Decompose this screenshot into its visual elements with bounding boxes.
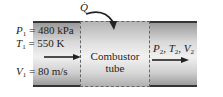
- heat-label: · Q: [80, 2, 88, 13]
- combustor-label-line1: Combustor: [80, 50, 150, 62]
- combustor-label-line2: tube: [80, 62, 150, 74]
- outlet-state-label: P2, T2, V2: [153, 43, 194, 58]
- heat-arrow-icon: [86, 12, 113, 22]
- inlet-velocity: V1 = 80 m/s: [16, 66, 68, 81]
- inlet-temperature: T1 = 550 K: [16, 38, 65, 53]
- heat-arrowhead-icon: [109, 21, 117, 30]
